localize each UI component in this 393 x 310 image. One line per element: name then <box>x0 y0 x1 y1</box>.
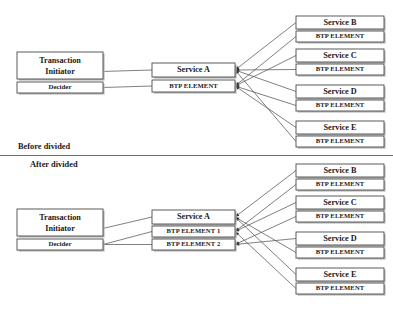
after-service-c-label: Service C <box>323 198 357 207</box>
after-service-b-btp-element-label: BTP ELEMENT <box>316 180 365 187</box>
before-service-b-btp-element-label: BTP ELEMENT <box>316 32 365 39</box>
after-transaction-initiator-line2: Initiator <box>45 224 75 233</box>
before-link-hub-service-b-element <box>235 37 296 87</box>
after-link-hub-service-d-element <box>235 217 296 253</box>
before-decider-label: Decider <box>49 83 72 90</box>
before-transaction-initiator-line1: Transaction <box>39 56 81 65</box>
after-service-e-label: Service E <box>324 270 358 279</box>
before-section-caption: Before divided <box>18 142 71 151</box>
after-link-hub-service-e-element <box>235 232 296 289</box>
diagram-canvas: TransactionInitiatorDeciderService ABTP … <box>0 0 393 310</box>
after-link-hub-service-b-element <box>235 185 296 232</box>
before-service-c-label: Service C <box>323 51 357 60</box>
before-service-e-label: Service E <box>324 123 358 132</box>
after-link-hub-service-b-service <box>235 171 296 218</box>
before-link-initiator-servicea <box>103 70 152 71</box>
after-hub-btp-element-1-label: BTP ELEMENT 1 <box>167 227 221 234</box>
before-hub-btp-element-1-label: BTP ELEMENT <box>169 82 218 89</box>
before-service-b-label: Service B <box>324 18 358 27</box>
before-link-hub-service-e-service <box>235 86 296 128</box>
before-link-hub-service-c-service <box>235 56 296 87</box>
before-service-a-label: Service A <box>177 65 210 74</box>
before-link-hub-service-c-element <box>235 70 296 71</box>
after-decider-label: Decider <box>49 240 72 247</box>
after-service-e-btp-element-label: BTP ELEMENT <box>316 284 365 291</box>
after-service-c-btp-element-label: BTP ELEMENT <box>316 212 365 219</box>
before-link-decider-element-1 <box>103 86 152 88</box>
after-service-d-label: Service D <box>323 234 357 243</box>
before-service-d-btp-element-label: BTP ELEMENT <box>316 101 365 108</box>
after-link-hub-service-d-service <box>235 239 296 245</box>
after-link-decider-element-1 <box>103 232 152 245</box>
before-link-hub-service-d-element <box>235 86 296 106</box>
after-section-caption: After divided <box>30 160 78 169</box>
diagram-root: TransactionInitiatorDeciderService ABTP … <box>0 0 393 310</box>
before-service-d-label: Service D <box>323 87 357 96</box>
before-transaction-initiator-line2: Initiator <box>45 67 75 76</box>
after-link-hub-service-c-service <box>235 203 296 232</box>
after-service-b-label: Service B <box>324 166 358 175</box>
before-service-c-btp-element-label: BTP ELEMENT <box>316 65 365 72</box>
after-service-d-btp-element-label: BTP ELEMENT <box>316 248 365 255</box>
after-service-a-label: Service A <box>177 212 210 221</box>
before-link-hub-service-b-service <box>235 23 296 71</box>
after-transaction-initiator-line1: Transaction <box>39 213 81 222</box>
after-link-initiator-servicea <box>103 217 152 228</box>
before-service-e-btp-element-label: BTP ELEMENT <box>316 137 365 144</box>
after-link-hub-service-e-service <box>235 217 296 275</box>
after-hub-btp-element-2-label: BTP ELEMENT 2 <box>167 240 221 247</box>
